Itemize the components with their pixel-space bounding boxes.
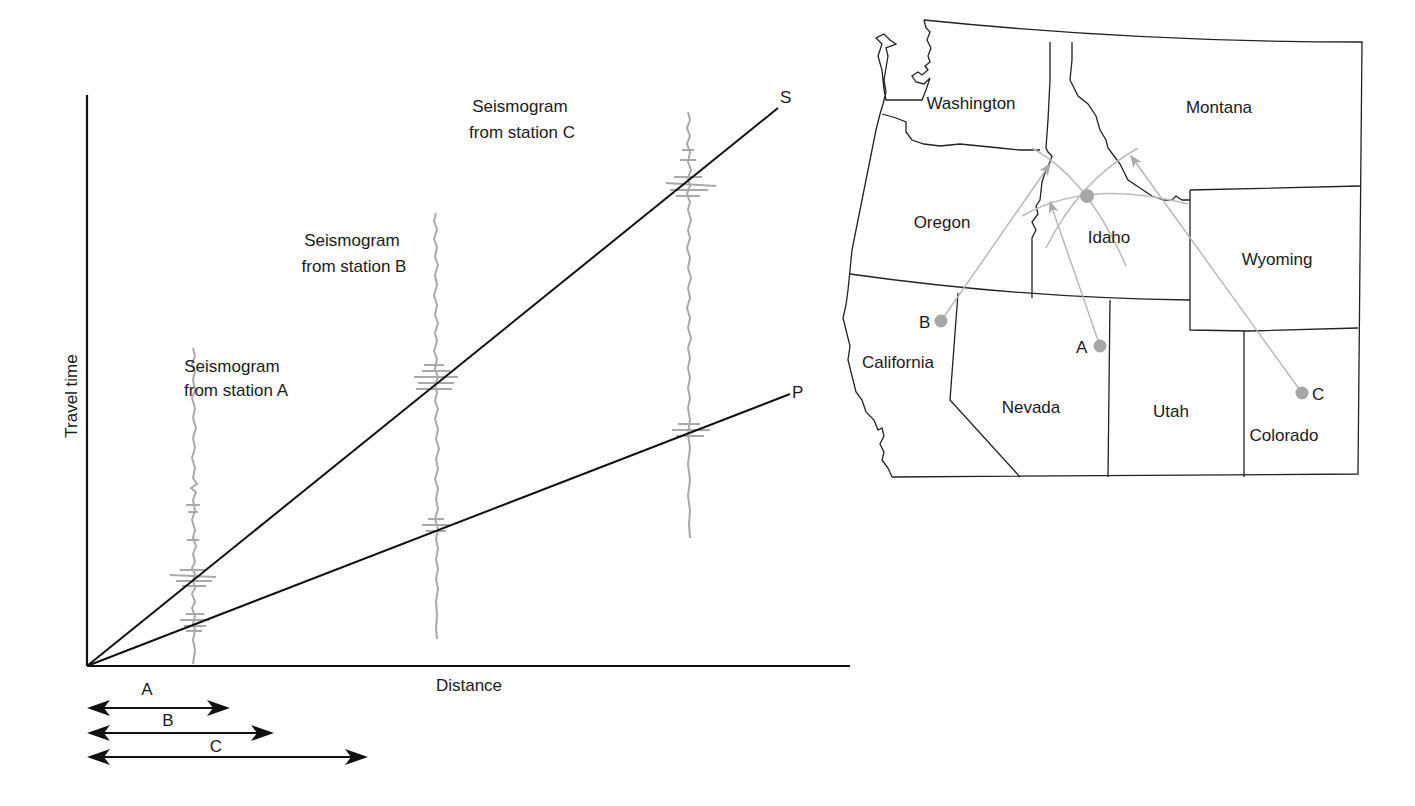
california-nevada-border <box>950 293 1020 477</box>
state-label-oregon: Oregon <box>914 213 971 232</box>
seismogram-c-caption-line2: from station C <box>469 123 575 142</box>
seismogram-b-caption-line1: Seismogram <box>304 231 399 250</box>
seismogram-c-caption-line1: Seismogram <box>472 97 567 116</box>
state-label-nevada: Nevada <box>1002 398 1061 417</box>
map-outer-border <box>892 20 1362 477</box>
42nd-parallel-border <box>850 274 1190 300</box>
state-label-washington: Washington <box>926 94 1015 113</box>
distance-arrow-a-label: A <box>141 680 153 699</box>
washington-idaho-border <box>1046 42 1052 162</box>
ray-station-c <box>1131 156 1302 393</box>
epicenter-map: B A C Washington Montana Oregon Idaho Wy… <box>843 20 1362 477</box>
arc-station-a <box>1022 193 1188 216</box>
ray-station-b <box>941 164 1050 321</box>
station-b-label: B <box>919 313 930 332</box>
state-label-idaho: Idaho <box>1088 228 1131 247</box>
state-label-california: California <box>862 353 934 372</box>
figure-canvas: S P Seismogram from station A Seismogram… <box>0 0 1415 806</box>
seismogram-trace-b <box>414 213 458 639</box>
travel-time-graph: S P Seismogram from station A Seismogram… <box>62 88 850 765</box>
ray-station-a <box>1050 202 1100 346</box>
pacific-coastline <box>843 20 931 477</box>
seismogram-a-caption-line1: Seismogram <box>184 357 279 376</box>
nevada-utah-border <box>1108 300 1110 477</box>
p-wave-line <box>87 394 790 666</box>
p-line-label: P <box>792 383 803 402</box>
distance-arrow-a: A <box>87 680 230 716</box>
seismogram-a-caption-line2: from station A <box>184 381 289 400</box>
station-a-marker <box>1094 340 1107 353</box>
station-c-label: C <box>1312 385 1324 404</box>
washington-oregon-border <box>882 114 1040 150</box>
state-label-wyoming: Wyoming <box>1242 250 1313 269</box>
station-c-marker <box>1296 387 1309 400</box>
distance-arrow-c-label: C <box>210 737 222 756</box>
station-b-marker <box>935 315 948 328</box>
epicenter-marker <box>1080 189 1094 203</box>
station-a-label: A <box>1076 338 1088 357</box>
state-label-colorado: Colorado <box>1250 426 1319 445</box>
distance-arrow-c: C <box>87 737 368 765</box>
idaho-montana-border <box>1070 42 1190 200</box>
seismogram-b-caption-line2: from station B <box>302 257 407 276</box>
s-line-label: S <box>780 88 791 107</box>
x-axis-label: Distance <box>436 676 502 695</box>
idaho-oregon-border <box>1032 162 1050 298</box>
y-axis-label: Travel time <box>62 354 81 437</box>
distance-arrow-b-label: B <box>162 711 173 730</box>
state-label-utah: Utah <box>1153 402 1189 421</box>
seismogram-trace-c <box>666 112 716 538</box>
distance-arrow-b: B <box>87 711 274 741</box>
state-label-montana: Montana <box>1186 98 1253 117</box>
